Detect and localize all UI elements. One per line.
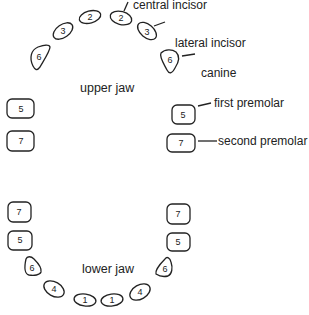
annotation-first-premolar: first premolar (214, 96, 284, 110)
tooth-number: 5 (180, 110, 185, 120)
tooth-number: 7 (16, 207, 21, 217)
tooth-number: 5 (17, 235, 22, 245)
annotation-canine: canine (201, 66, 236, 80)
upper-jaw-label: upper jaw (80, 81, 134, 95)
tooth-number: 7 (178, 138, 183, 148)
tooth-number: 3 (144, 27, 149, 37)
tooth-number: 5 (175, 237, 180, 247)
tooth-number: 4 (51, 284, 56, 294)
leader-line-canine (182, 54, 195, 56)
leader-line-central-incisor (124, 2, 128, 11)
tooth-number: 7 (18, 136, 23, 146)
tooth-number: 4 (137, 287, 142, 297)
tooth-number: 3 (60, 26, 65, 36)
annotation-central-incisor: central incisor (133, 0, 207, 12)
tooth-number: 1 (82, 295, 87, 305)
annotation-lateral-incisor: lateral incisor (175, 36, 246, 50)
tooth-number: 7 (175, 209, 180, 219)
tooth-number: 6 (29, 263, 34, 273)
teeth-diagram: 2 2 3 3 6 6 5 5 7 7 7 7 5 5 6 6 4 4 1 1 (0, 0, 309, 315)
tooth-number: 2 (87, 12, 92, 22)
lower-jaw-label: lower jaw (82, 262, 134, 276)
leader-line-lateral-incisor (154, 22, 165, 26)
tooth-number: 6 (167, 55, 172, 65)
leader-line-first-premolar (198, 103, 211, 106)
tooth-number: 2 (118, 13, 123, 23)
annotation-second-premolar: second premolar (218, 134, 307, 148)
tooth-number: 6 (162, 264, 167, 274)
tooth-number: 6 (36, 52, 41, 62)
tooth-number: 5 (18, 104, 23, 114)
tooth-number: 1 (109, 295, 114, 305)
